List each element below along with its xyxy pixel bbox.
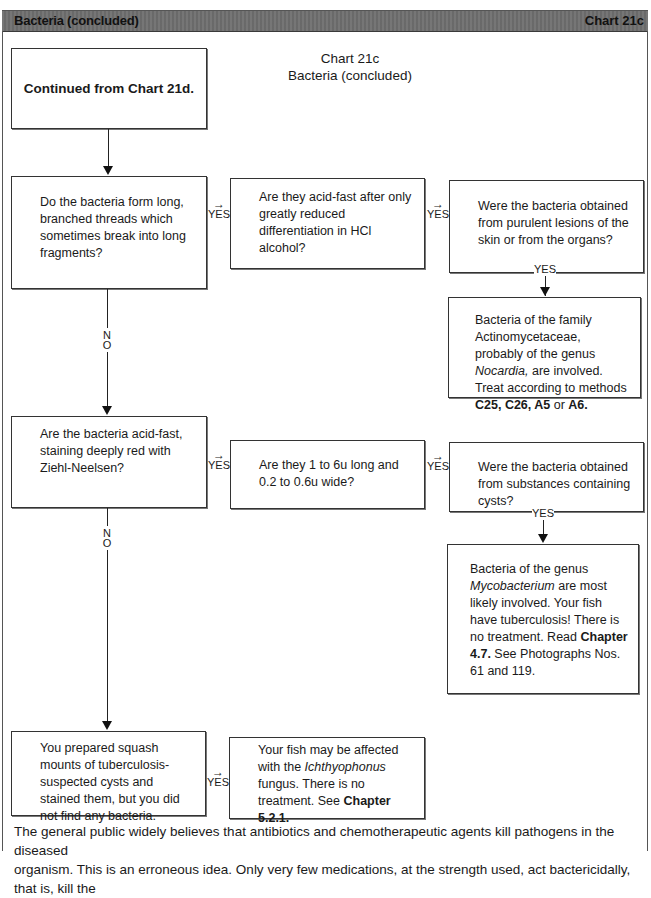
no-label: N O — [102, 328, 112, 352]
no-label-o: O — [102, 538, 112, 548]
question-text: Do the bacteria form long, branched thre… — [40, 194, 196, 262]
arrow-down-icon — [102, 721, 112, 730]
arrow-down-icon — [103, 166, 113, 175]
genus-name: Mycobacterium — [470, 579, 555, 593]
body-paragraph: The general public widely believes that … — [14, 822, 644, 898]
yes-label: YES — [207, 776, 229, 788]
method-code: A6. — [568, 398, 587, 412]
no-label: N O — [102, 526, 112, 550]
header-bar: Bacteria (concluded) Chart 21c — [2, 10, 648, 32]
start-box: Continued from Chart 21d. — [11, 48, 207, 129]
question-box-purulent-lesions: Were the bacteria obtained from purulent… — [449, 180, 644, 273]
question-box-size: Are they 1 to 6u long and 0.2 to 0.6u wi… — [230, 440, 425, 509]
genus-name: Nocardia, — [475, 364, 529, 378]
yes-label: YES — [427, 460, 449, 472]
question-box-ziehl-neelsen: Are the bacteria acid-fast, staining dee… — [11, 416, 207, 508]
header-section-title: Bacteria (concluded) — [14, 13, 139, 28]
yes-label: YES — [534, 262, 556, 276]
observation-text: You prepared squash mounts of tuberculos… — [40, 740, 195, 825]
question-text: Are they acid-fast after only greatly re… — [259, 189, 414, 257]
question-text: Are the bacteria acid-fast, staining dee… — [40, 426, 196, 477]
result-box-ichthyophonus: Your fish may be affected with the Ichth… — [229, 737, 425, 819]
method-codes: C25, C26, A5 — [475, 398, 550, 412]
no-label-o: O — [102, 340, 112, 350]
result-box-mycobacterium: Bacteria of the genus Mycobacterium are … — [447, 544, 639, 694]
chart-title-number: Chart 21c — [270, 50, 430, 67]
question-box-acid-fast-hcl: Are they acid-fast after only greatly re… — [230, 178, 425, 269]
question-text: Were the bacteria obtained from purulent… — [478, 198, 633, 249]
question-box-threads: Do the bacteria form long, branched thre… — [11, 176, 207, 289]
arrow-down-icon — [538, 534, 548, 543]
paragraph-line: The general public widely believes that … — [14, 822, 644, 860]
result-text-part: Bacteria of the genus — [470, 562, 588, 576]
question-text: Were the bacteria obtained from substanc… — [478, 459, 633, 510]
result-box-nocardia: Bacteria of the family Actinomycetaceae,… — [448, 297, 641, 398]
connector-line — [108, 129, 109, 167]
yes-label: YES — [208, 459, 230, 471]
start-label: Continued from Chart 21d. — [24, 80, 194, 97]
chart-title-subject: Bacteria (concluded) — [270, 67, 430, 84]
result-text-part: Bacteria of the family Actinomycetaceae,… — [475, 313, 595, 361]
question-box-cysts: Were the bacteria obtained from substanc… — [449, 442, 644, 512]
result-text-part: See Photographs Nos. 61 and 119. — [470, 647, 620, 678]
paragraph-line: organism. This is an erroneous idea. Onl… — [14, 860, 644, 898]
observation-box-squash-mounts: You prepared squash mounts of tuberculos… — [11, 731, 206, 816]
result-text: Bacteria of the genus Mycobacterium are … — [470, 561, 628, 680]
yes-arrow: → YES — [427, 200, 449, 220]
result-text: Bacteria of the family Actinomycetaceae,… — [475, 312, 630, 414]
chart-title: Chart 21c Bacteria (concluded) — [270, 50, 430, 84]
genus-name: Ichthyophonus — [305, 760, 386, 774]
yes-arrow: → YES — [208, 451, 230, 471]
yes-label: YES — [532, 506, 554, 520]
yes-arrow: → YES — [427, 452, 449, 472]
result-text-part: or — [550, 398, 568, 412]
yes-label: YES — [427, 208, 449, 220]
arrow-down-icon — [102, 406, 112, 415]
yes-arrow: → YES — [208, 200, 230, 220]
yes-arrow: → YES — [207, 768, 229, 788]
question-text: Are they 1 to 6u long and 0.2 to 0.6u wi… — [259, 457, 414, 491]
header-chart-number: Chart 21c — [585, 13, 644, 28]
arrow-down-icon — [540, 287, 550, 296]
result-text: Your fish may be affected with the Ichth… — [258, 742, 414, 827]
yes-label: YES — [208, 208, 230, 220]
